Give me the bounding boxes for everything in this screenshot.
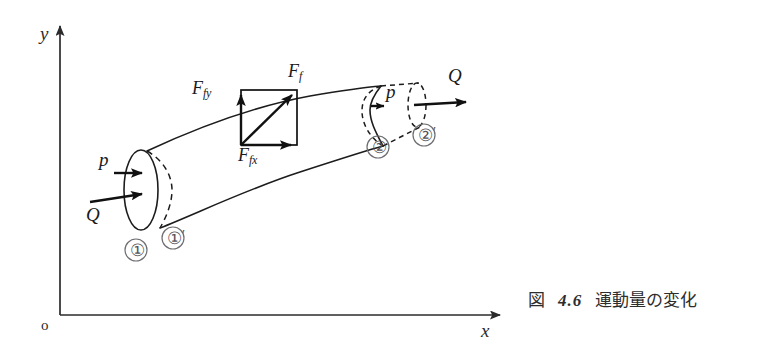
- force-horizontal-label: Ffx: [238, 146, 257, 164]
- force-horizontal-base: F: [238, 145, 249, 165]
- force-vertical-label: Ffy: [192, 79, 211, 97]
- outlet-arrows: [371, 102, 466, 106]
- caption-number: 4.6: [558, 291, 582, 310]
- y-axis-label: y: [40, 24, 48, 43]
- force-horizontal-sub: fx: [249, 153, 257, 167]
- origin-label: o: [41, 318, 49, 333]
- force-resultant-label: Ff: [288, 62, 302, 80]
- force-resultant-sub: f: [299, 69, 302, 83]
- outlet-section-prime-number-text: ②: [418, 126, 433, 145]
- x-axis-label: x: [481, 321, 489, 340]
- inlet-arrows: [90, 173, 142, 202]
- outlet-flow-arrow: [414, 102, 466, 105]
- stream-tube: [147, 86, 383, 228]
- force-resultant-base: F: [288, 61, 299, 81]
- tube-upper-wall: [147, 86, 381, 151]
- force-resultant-vector: [241, 95, 292, 145]
- caption-prefix: 図: [528, 290, 545, 310]
- outlet-prime-mark: ′: [433, 125, 436, 140]
- outlet-section-prime-number: ②′: [418, 127, 436, 144]
- outlet-section-number-text: ②: [372, 138, 387, 157]
- force-diagram: [241, 90, 297, 145]
- inlet-pressure-label: p: [99, 150, 109, 169]
- inlet-section-number: ①: [130, 242, 145, 259]
- inlet-flow-arrow: [90, 194, 142, 202]
- inlet-section-1-prime: [147, 149, 172, 229]
- force-vertical-base: F: [192, 78, 203, 98]
- inlet-prime-dashed-arc: [147, 151, 172, 228]
- outlet-flow-label: Q: [448, 66, 462, 85]
- force-vertical-sub: fy: [203, 86, 211, 100]
- inlet-prime-mark: ′: [182, 228, 185, 243]
- inlet-flow-label: Q: [86, 205, 100, 224]
- tube-lower-wall: [160, 146, 383, 228]
- inlet-section-prime-number: ①′: [167, 230, 185, 247]
- figure-container: y x o p Q ① ①′ Ff Ffy Ffx p Q ② ②′ 図4.6運…: [0, 0, 765, 349]
- inlet-ellipse: [124, 150, 158, 230]
- inlet-section-number-text: ①: [130, 241, 145, 260]
- outlet-pressure-label: p: [386, 82, 396, 101]
- inlet-section-prime-number-text: ①: [167, 229, 182, 248]
- figure-caption: 図4.6運動量の変化: [528, 286, 697, 311]
- outlet-section-number: ②: [372, 139, 387, 156]
- caption-title: 運動量の変化: [595, 290, 697, 310]
- inlet-section-1: [124, 150, 158, 230]
